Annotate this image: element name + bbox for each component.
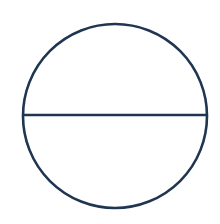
circle-diagram — [0, 0, 220, 224]
diagram-canvas — [0, 0, 220, 224]
